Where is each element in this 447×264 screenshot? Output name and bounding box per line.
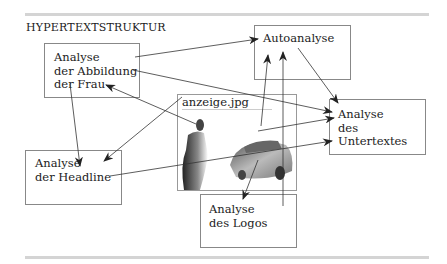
connector-arrows [0,0,447,264]
